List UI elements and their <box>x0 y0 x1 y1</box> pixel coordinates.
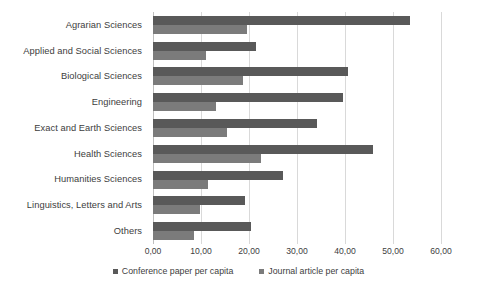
bar-journal <box>153 25 247 34</box>
legend-item[interactable]: Conference paper per capita <box>113 266 234 276</box>
bar-group <box>153 89 441 115</box>
bar-group <box>153 141 441 167</box>
bar-conference <box>153 119 317 128</box>
legend-label: Conference paper per capita <box>122 266 234 276</box>
category-label: Health Sciences <box>0 141 148 167</box>
bar-journal <box>153 76 243 85</box>
bar-groups <box>153 12 441 244</box>
value-tick-label: 30,00 <box>286 246 308 256</box>
legend-swatch-icon <box>113 269 118 274</box>
bar-conference <box>153 222 251 231</box>
bar-conference <box>153 16 410 25</box>
bar-conference <box>153 145 373 154</box>
bar-group <box>153 218 441 244</box>
value-tick-label: 10,00 <box>190 246 212 256</box>
bar-group <box>153 192 441 218</box>
bar-group <box>153 167 441 193</box>
category-label: Engineering <box>0 89 148 115</box>
bar-group <box>153 38 441 64</box>
chart-legend: Conference paper per capitaJournal artic… <box>0 266 477 276</box>
value-tick-label: 20,00 <box>238 246 260 256</box>
bar-conference <box>153 42 256 51</box>
bar-journal <box>153 102 216 111</box>
category-label: Humanities Sciences <box>0 167 148 193</box>
bar-group <box>153 64 441 90</box>
legend-label: Journal article per capita <box>268 266 364 276</box>
category-label: Biological Sciences <box>0 64 148 90</box>
bar-journal <box>153 205 200 214</box>
value-tick-label: 40,00 <box>334 246 356 256</box>
legend-swatch-icon <box>259 269 264 274</box>
category-label: Linguistics, Letters and Arts <box>0 192 148 218</box>
bar-group <box>153 115 441 141</box>
category-label: Agrarian Sciences <box>0 12 148 38</box>
legend-item[interactable]: Journal article per capita <box>259 266 364 276</box>
value-axis: 0,0010,0020,0030,0040,0050,0060,00 <box>153 246 441 260</box>
value-tick-label: 50,00 <box>382 246 404 256</box>
bar-conference <box>153 171 283 180</box>
gridline <box>441 12 442 244</box>
bar-group <box>153 12 441 38</box>
bar-journal <box>153 128 227 137</box>
bar-journal <box>153 180 208 189</box>
category-label: Applied and Social Sciences <box>0 38 148 64</box>
bar-conference <box>153 196 245 205</box>
bar-conference <box>153 67 348 76</box>
plot-area <box>153 12 441 244</box>
bar-journal <box>153 231 194 240</box>
value-tick-label: 0,00 <box>145 246 162 256</box>
category-label: Others <box>0 218 148 244</box>
bar-journal <box>153 51 206 60</box>
bar-conference <box>153 93 343 102</box>
bar-chart: Agrarian SciencesApplied and Social Scie… <box>0 0 477 291</box>
bar-journal <box>153 154 261 163</box>
category-axis: Agrarian SciencesApplied and Social Scie… <box>0 12 148 244</box>
category-label: Exact and Earth Sciences <box>0 115 148 141</box>
value-tick-label: 60,00 <box>430 246 452 256</box>
